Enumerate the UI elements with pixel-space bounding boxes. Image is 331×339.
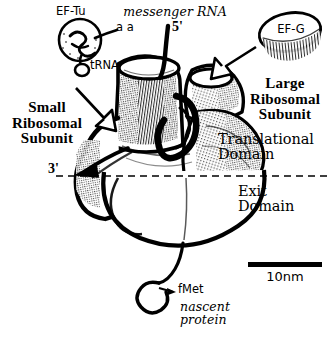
label-three-prime: 3' [48, 162, 68, 177]
label-nascent-protein: nascent protein [180, 300, 260, 326]
label-ef-g: EF-G [268, 24, 314, 36]
label-translational-domain: Translational Domain [218, 132, 330, 162]
label-small-ribosomal-subunit: Small Ribosomal Subunit [4, 100, 90, 147]
label-large-ribosomal-subunit: Large Ribosomal Subunit [240, 76, 330, 123]
label-amino-acid: a a [116, 22, 146, 34]
ribosome-translation-diagram: EF-Tu a a tRNA messenger RNA 5' EF-G Sma… [0, 0, 331, 339]
label-messenger-rna: messenger RNA [120, 5, 230, 18]
label-scale: 10nm [248, 270, 322, 284]
scale-bar [248, 262, 322, 267]
label-five-prime: 5' [172, 20, 192, 35]
head-left-shading [118, 72, 186, 150]
trna-anticodon-loop [75, 64, 89, 76]
label-exit-domain: Exit Domain [238, 184, 328, 214]
label-fmet: fMet [178, 284, 218, 296]
fmet-arrowhead [167, 288, 176, 295]
label-trna: tRNA [90, 60, 134, 72]
nascent-protein-strand [159, 243, 183, 283]
label-ef-tu: EF-Tu [56, 6, 106, 18]
nascent-protein-loop [137, 282, 168, 313]
ef-g-complex [256, 8, 324, 65]
